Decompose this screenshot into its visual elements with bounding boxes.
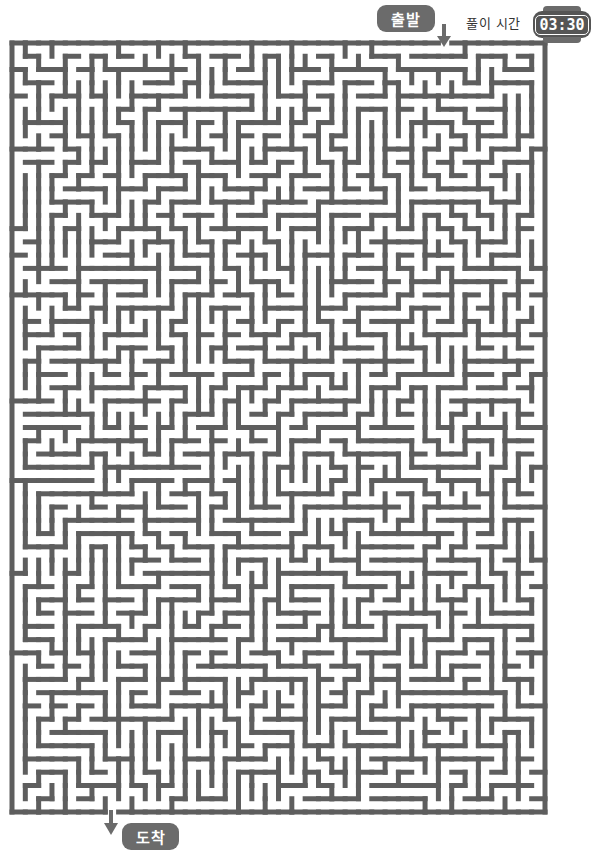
end-label: 도착 xyxy=(136,826,166,847)
solve-time-value: 03:30 xyxy=(535,15,588,35)
maze-walls[interactable] xyxy=(0,0,595,858)
start-arrow-down-icon xyxy=(436,24,452,48)
maze-board[interactable] xyxy=(0,0,595,858)
solve-time-label: 풀이 시간 xyxy=(466,13,521,32)
start-label: 출발 xyxy=(391,8,421,29)
watch-face: 03:30 xyxy=(533,11,591,38)
watch-strap-bottom xyxy=(543,37,581,43)
smartwatch-icon: 03:30 xyxy=(533,6,591,43)
end-badge: 도착 xyxy=(122,823,179,850)
start-badge: 출발 xyxy=(377,5,435,32)
end-arrow-down-icon xyxy=(103,810,119,836)
